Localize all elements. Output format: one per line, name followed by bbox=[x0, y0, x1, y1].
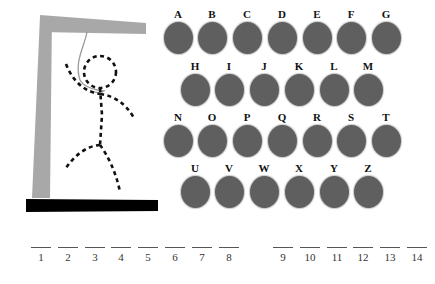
letter-button-k[interactable]: K bbox=[284, 60, 314, 104]
slot-number: 10 bbox=[300, 251, 320, 263]
letter-button-s[interactable]: S bbox=[336, 111, 366, 155]
slot-number: 8 bbox=[219, 251, 239, 263]
letter-label: A bbox=[163, 8, 193, 20]
slot-number: 11 bbox=[327, 251, 347, 263]
letter-label: V bbox=[214, 162, 244, 174]
letter-button-u[interactable]: U bbox=[180, 162, 210, 206]
letter-label: U bbox=[180, 162, 210, 174]
slot-number: 3 bbox=[85, 251, 105, 263]
letter-disc[interactable] bbox=[268, 22, 297, 54]
letter-button-j[interactable]: J bbox=[249, 60, 279, 104]
letter-label: Q bbox=[267, 111, 297, 123]
slot-number: 1 bbox=[31, 251, 51, 263]
letter-label: T bbox=[371, 111, 401, 123]
slot-number: 4 bbox=[111, 251, 131, 263]
letter-button-r[interactable]: R bbox=[302, 111, 332, 155]
letter-disc[interactable] bbox=[320, 176, 349, 208]
letter-disc[interactable] bbox=[354, 74, 383, 106]
letter-button-i[interactable]: I bbox=[214, 60, 244, 104]
letter-disc[interactable] bbox=[181, 74, 210, 106]
letter-label: F bbox=[336, 8, 366, 20]
letter-label: H bbox=[180, 60, 210, 72]
letter-button-x[interactable]: X bbox=[284, 162, 314, 206]
rope bbox=[78, 32, 104, 93]
slot-number: 9 bbox=[273, 251, 293, 263]
letter-disc[interactable] bbox=[303, 125, 332, 157]
letter-disc[interactable] bbox=[215, 176, 244, 208]
slot-underline bbox=[138, 247, 158, 248]
letter-button-p[interactable]: P bbox=[232, 111, 262, 155]
letter-button-g[interactable]: G bbox=[371, 8, 401, 52]
letter-button-f[interactable]: F bbox=[336, 8, 366, 52]
letter-disc[interactable] bbox=[337, 22, 366, 54]
letter-button-y[interactable]: Y bbox=[319, 162, 349, 206]
letter-label: K bbox=[284, 60, 314, 72]
letter-disc[interactable] bbox=[320, 74, 349, 106]
letter-disc[interactable] bbox=[285, 74, 314, 106]
letter-button-d[interactable]: D bbox=[267, 8, 297, 52]
letter-disc[interactable] bbox=[215, 74, 244, 106]
letter-disc[interactable] bbox=[372, 125, 401, 157]
letter-disc[interactable] bbox=[303, 22, 332, 54]
slot-underline bbox=[273, 247, 293, 248]
letter-disc[interactable] bbox=[285, 176, 314, 208]
slot-number: 2 bbox=[58, 251, 78, 263]
letter-disc[interactable] bbox=[354, 176, 383, 208]
slot-number: 6 bbox=[165, 251, 185, 263]
letter-disc[interactable] bbox=[198, 125, 227, 157]
letter-label: G bbox=[371, 8, 401, 20]
letter-button-v[interactable]: V bbox=[214, 162, 244, 206]
figure-head bbox=[84, 56, 116, 88]
letter-disc[interactable] bbox=[250, 176, 279, 208]
letter-button-c[interactable]: C bbox=[232, 8, 262, 52]
slot-underline bbox=[300, 247, 320, 248]
letter-label: N bbox=[163, 111, 193, 123]
letter-button-a[interactable]: A bbox=[163, 8, 193, 52]
slot-underline bbox=[219, 247, 239, 248]
letter-disc[interactable] bbox=[372, 22, 401, 54]
slot-underline bbox=[407, 247, 427, 248]
letter-disc[interactable] bbox=[233, 125, 262, 157]
letter-button-z[interactable]: Z bbox=[353, 162, 383, 206]
letter-disc[interactable] bbox=[164, 125, 193, 157]
letter-button-n[interactable]: N bbox=[163, 111, 193, 155]
letter-disc[interactable] bbox=[164, 22, 193, 54]
letter-label: J bbox=[249, 60, 279, 72]
letter-label: B bbox=[197, 8, 227, 20]
letter-disc[interactable] bbox=[181, 176, 210, 208]
letter-button-w[interactable]: W bbox=[249, 162, 279, 206]
letter-disc[interactable] bbox=[268, 125, 297, 157]
letter-disc[interactable] bbox=[233, 22, 262, 54]
letter-button-o[interactable]: O bbox=[197, 111, 227, 155]
letter-button-t[interactable]: T bbox=[371, 111, 401, 155]
slot-number: 13 bbox=[380, 251, 400, 263]
figure-body bbox=[100, 88, 102, 145]
letter-label: I bbox=[214, 60, 244, 72]
letter-disc[interactable] bbox=[337, 125, 366, 157]
letter-label: M bbox=[353, 60, 383, 72]
letter-label: O bbox=[197, 111, 227, 123]
letter-disc[interactable] bbox=[250, 74, 279, 106]
slot-underline bbox=[58, 247, 78, 248]
letter-label: X bbox=[284, 162, 314, 174]
letter-button-e[interactable]: E bbox=[302, 8, 332, 52]
letter-label: R bbox=[302, 111, 332, 123]
slot-number: 7 bbox=[192, 251, 212, 263]
slot-underline bbox=[353, 247, 373, 248]
letter-button-l[interactable]: L bbox=[319, 60, 349, 104]
letter-disc[interactable] bbox=[198, 22, 227, 54]
slot-underline bbox=[327, 247, 347, 248]
letter-label: E bbox=[302, 8, 332, 20]
letter-button-m[interactable]: M bbox=[353, 60, 383, 104]
letter-button-b[interactable]: B bbox=[197, 8, 227, 52]
slot-underline bbox=[31, 247, 51, 248]
letter-label: C bbox=[232, 8, 262, 20]
letter-label: S bbox=[336, 111, 366, 123]
figure-left-leg bbox=[66, 145, 100, 168]
letter-button-q[interactable]: Q bbox=[267, 111, 297, 155]
gallows-base bbox=[26, 199, 158, 212]
slot-number: 12 bbox=[353, 251, 373, 263]
letter-label: W bbox=[249, 162, 279, 174]
letter-button-h[interactable]: H bbox=[180, 60, 210, 104]
letter-label: L bbox=[319, 60, 349, 72]
